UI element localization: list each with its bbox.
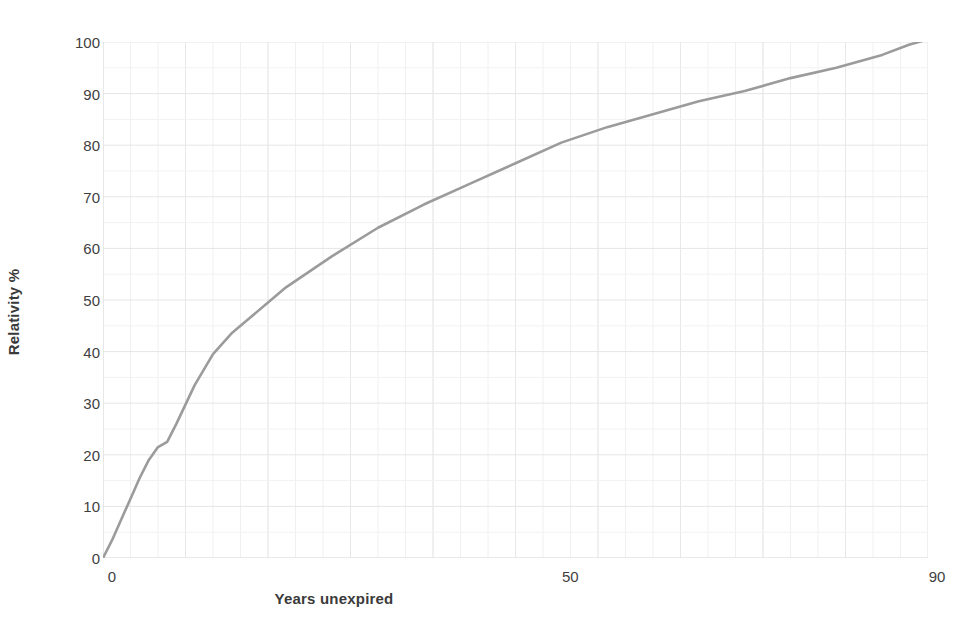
x-tick-label: 50 [562,568,579,585]
plot-area [103,42,928,558]
chart-container: Relativity % 0102030405060708090100 0509… [0,0,978,624]
x-tick-label: 90 [929,568,946,585]
x-tick-label: 0 [108,568,116,585]
plot-svg [103,42,928,558]
x-axis-title: Years unexpired [275,590,394,607]
